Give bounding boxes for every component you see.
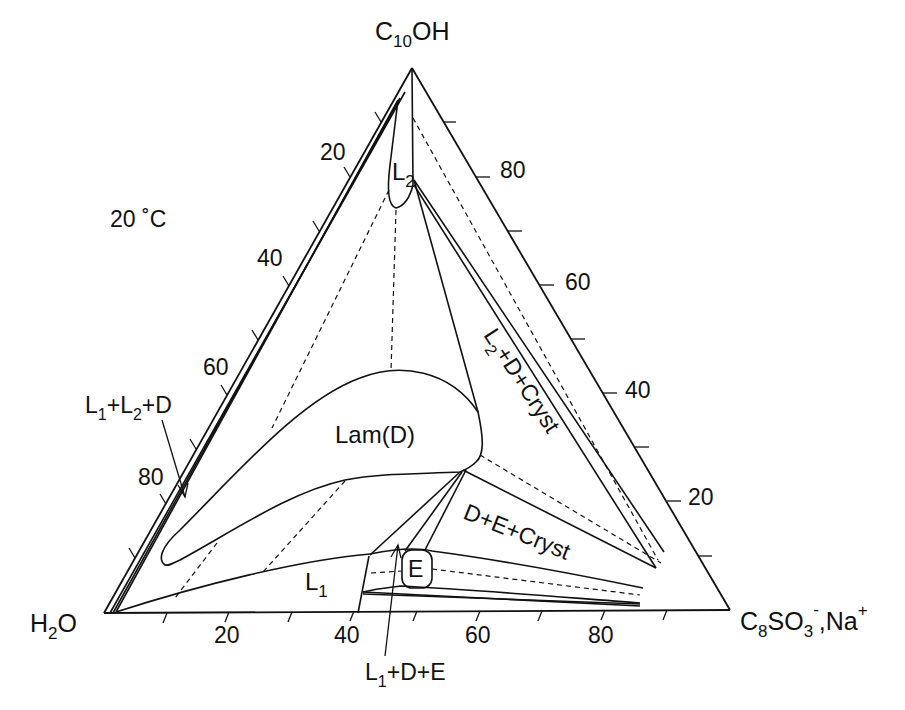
vertex-label-top: C10OH [375,17,449,51]
right-tick-label: 80 [500,157,526,183]
triangle-frame [104,68,730,613]
region-label-l2: L2 [392,158,415,191]
dashed-tie-lines-lower [175,481,345,598]
bottom-tick-label: 60 [465,622,491,648]
temperature-label: 20 ˚C [110,206,166,232]
region-label-l1: L1 [305,568,328,601]
dashed-tie-lines-upper [272,190,396,428]
l1-boundary [116,554,370,612]
bottom-tick-label: 40 [334,622,360,648]
left-edge-boundaries [110,92,405,613]
region-label-d-e-cryst: D+E+Cryst [460,499,575,565]
left-tick-label: 40 [257,245,283,271]
left-tick-label: 80 [138,464,164,490]
region-label-e: E [408,556,423,582]
bottom-tick-label: 80 [588,622,614,648]
arrow-l1-d-e [385,545,401,656]
region-label-lam-d: Lam(D) [335,421,415,448]
right-tick-label: 40 [625,377,651,403]
left-tick-label: 20 [320,139,346,165]
region-label-l2-d-cryst: L2+D+Cryst [475,324,566,441]
three-phase-lines [370,470,466,555]
left-axis-ticks [129,112,381,558]
right-tick-label: 60 [565,269,591,295]
lam-d-boundary [161,370,482,565]
vertex-label-bottom-left: H2O [30,609,77,643]
ternary-diagram: C10OH H2O C8SO3-,Na+ 20 ˚C 20 40 60 80 8… [0,0,905,710]
e-region-boundaries [358,549,643,613]
left-tick-label: 60 [203,354,229,380]
right-tick-label: 20 [688,484,714,510]
region-label-l1-d-e: L1+D+E [365,659,446,690]
vertex-label-bottom-right: C8SO3-,Na+ [740,600,868,641]
region-label-l1-l2-d: L1+L2+D [85,392,172,423]
bottom-tick-label: 20 [214,622,240,648]
